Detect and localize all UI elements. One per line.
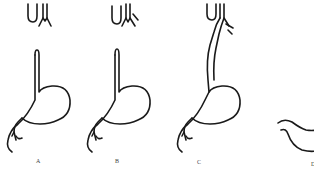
panel-a-drawing [8,4,71,152]
esophagus-stomach-diagram: A B C D [0,0,314,171]
panel-b-label: B [115,158,119,164]
panel-d-label: D [311,161,314,167]
panel-b-drawing [88,4,151,152]
panel-a-label: A [36,158,40,164]
diagram-canvas [0,0,314,171]
panel-c-label: C [197,159,201,165]
panel-c-drawing [178,4,241,152]
panel-d-drawing [278,120,314,151]
